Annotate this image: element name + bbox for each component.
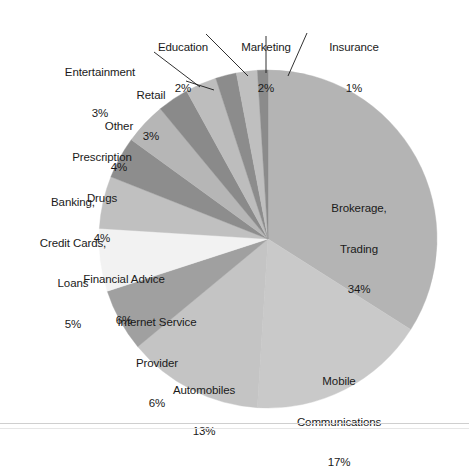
label-automobiles-value: 13% xyxy=(155,425,253,439)
label-marketing-value: 2% xyxy=(224,82,308,96)
label-mobile-name-line1: Mobile xyxy=(283,375,395,389)
label-prescription-drugs-name-line1: Prescription xyxy=(48,151,156,165)
label-insurance-name: Insurance xyxy=(312,41,396,55)
label-brokerage-name-line2: Trading xyxy=(310,243,408,257)
label-banking-name-line1: Banking, xyxy=(18,196,128,210)
label-automobiles: Automobiles 13% xyxy=(155,357,253,465)
label-marketing: Marketing 2% xyxy=(224,14,308,122)
footer-divider xyxy=(0,423,469,424)
label-mobile-communications: Mobile Communications 17% xyxy=(283,348,395,470)
label-insurance-value: 1% xyxy=(312,82,396,96)
label-marketing-name: Marketing xyxy=(224,41,308,55)
label-financial-advice-name: Financial Advice xyxy=(64,273,184,287)
label-brokerage-trading: Brokerage, Trading 34% xyxy=(310,175,408,324)
label-insurance: Insurance 1% xyxy=(312,14,396,122)
label-isp-name-line1: Internet Service xyxy=(98,316,216,330)
footer-divider-secondary xyxy=(0,428,469,429)
label-mobile-value: 17% xyxy=(283,456,395,470)
label-brokerage-value: 34% xyxy=(310,283,408,297)
label-automobiles-name: Automobiles xyxy=(155,384,253,398)
label-brokerage-name-line1: Brokerage, xyxy=(310,202,408,216)
label-education-name: Education xyxy=(140,41,226,55)
